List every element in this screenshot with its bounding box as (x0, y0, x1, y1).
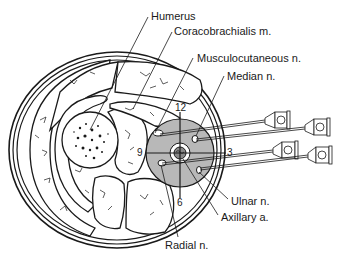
label-musculocutaneous: Musculocutaneous n. (197, 53, 301, 64)
clock-6: 6 (177, 198, 183, 208)
clock-9: 9 (137, 148, 143, 158)
label-median: Median n. (227, 71, 275, 82)
label-humerus: Humerus (151, 11, 196, 22)
musculocutaneous-nerve (153, 130, 163, 136)
label-ulnar: Ulnar n. (231, 196, 270, 207)
cross-section-diagram (0, 0, 346, 256)
label-coracobrachialis: Coracobrachialis m. (174, 26, 271, 37)
clock-3: 3 (227, 148, 233, 158)
label-radial: Radial n. (165, 240, 208, 251)
humerus-bone (62, 112, 118, 168)
label-axillary: Axillary a. (221, 212, 269, 223)
clock-12: 12 (175, 103, 186, 113)
